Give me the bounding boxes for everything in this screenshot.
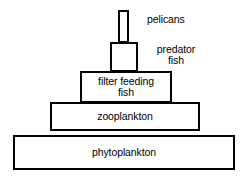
pyramid-tier-predator-fish bbox=[110, 42, 138, 72]
energy-pyramid-diagram: pelicans predator fish filter feeding fi… bbox=[0, 0, 248, 178]
pyramid-tier-zooplankton: zooplankton bbox=[50, 102, 200, 131]
callout-label-pelicans: pelicans bbox=[147, 14, 185, 25]
pyramid-tier-filter-feeding-fish: filter feeding fish bbox=[80, 71, 172, 103]
pyramid-tier-phytoplankton: phytoplankton bbox=[13, 135, 235, 170]
pyramid-tier-phytoplankton-label: phytoplankton bbox=[92, 147, 156, 158]
pyramid-tier-filter-feeding-fish-label: filter feeding fish bbox=[98, 76, 154, 97]
callout-label-predator-fish: predator fish bbox=[147, 44, 205, 67]
pyramid-tier-zooplankton-label: zooplankton bbox=[97, 111, 153, 122]
pyramid-tier-pelicans bbox=[118, 10, 129, 43]
